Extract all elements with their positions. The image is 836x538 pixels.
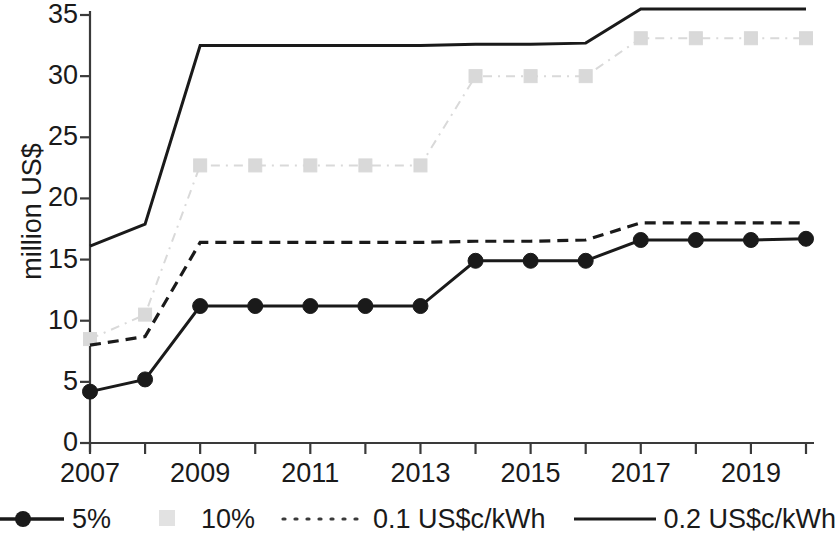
series-marker <box>138 372 153 387</box>
legend-label: 0.2 US$c/kWh <box>664 504 836 535</box>
legend-label: 10% <box>201 504 255 535</box>
series-marker <box>249 159 262 172</box>
series-marker <box>468 253 483 268</box>
legend-swatch-line-circle-marker-icon <box>0 508 66 530</box>
x-axis-tick-label: 2015 <box>501 458 561 489</box>
legend-marker <box>159 510 175 526</box>
series-line-2 <box>90 38 806 339</box>
legend-item[interactable]: 0.2 US$c/kWh <box>572 504 836 535</box>
legend-label: 5% <box>72 504 111 535</box>
legend-swatch-solid-line-icon <box>572 508 658 530</box>
x-axis-tick-label: 2019 <box>721 458 781 489</box>
series-marker <box>634 32 647 45</box>
x-axis-tick-labels: 2007200920112013201520172019 <box>0 458 816 498</box>
series-marker <box>524 70 537 83</box>
legend-swatch-dotted-line-icon <box>281 508 367 530</box>
series-marker <box>689 32 702 45</box>
legend-swatch-gray-square-marker-icon <box>137 508 195 530</box>
series-marker <box>633 233 648 248</box>
x-axis-tick-label: 2011 <box>281 458 339 489</box>
series-marker <box>359 159 372 172</box>
x-axis-tick-label: 2017 <box>611 458 671 489</box>
series-marker <box>358 299 373 314</box>
plot-area <box>0 0 816 500</box>
series-marker <box>743 233 758 248</box>
series-marker <box>83 384 98 399</box>
series-marker <box>469 70 482 83</box>
series-marker <box>800 32 813 45</box>
series-marker <box>578 253 593 268</box>
series-marker <box>193 299 208 314</box>
legend-item[interactable]: 0.1 US$c/kWh <box>281 504 546 535</box>
x-axis-tick-label: 2013 <box>390 458 450 489</box>
legend-item[interactable]: 10% <box>137 504 255 535</box>
series-marker <box>414 159 427 172</box>
series-marker <box>688 233 703 248</box>
series-marker <box>248 299 263 314</box>
series-marker <box>303 299 318 314</box>
series-line-1 <box>90 239 806 392</box>
chart-legend: 5%10%0.1 US$c/kWh0.2 US$c/kWh <box>0 500 816 538</box>
series-marker <box>139 308 152 321</box>
legend-item[interactable]: 5% <box>0 504 111 535</box>
x-axis-tick-label: 2007 <box>60 458 120 489</box>
x-axis-tick-label: 2009 <box>170 458 230 489</box>
series-marker <box>579 70 592 83</box>
series-marker <box>744 32 757 45</box>
series-marker <box>413 299 428 314</box>
series-marker <box>799 231 814 246</box>
series-marker <box>304 159 317 172</box>
series-marker <box>523 253 538 268</box>
legend-label: 0.1 US$c/kWh <box>373 504 546 535</box>
legend-marker <box>15 511 31 527</box>
series-marker <box>194 159 207 172</box>
